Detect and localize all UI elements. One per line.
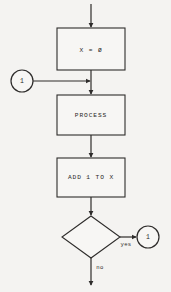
decision-no-label: no — [96, 264, 103, 271]
increment-box-label: ADD 1 TO X — [68, 174, 114, 181]
flowchart-svg: X = Ø 1 PROCESS ADD 1 TO X yes 1 no — [0, 0, 171, 292]
decision-yes-label: yes — [120, 241, 131, 248]
connector-left-label: 1 — [20, 78, 24, 85]
process-box-label: PROCESS — [75, 112, 107, 119]
decision-diamond[interactable] — [62, 216, 120, 258]
connector-right-label: 1 — [146, 234, 150, 241]
flowchart-canvas: X = Ø 1 PROCESS ADD 1 TO X yes 1 no — [0, 0, 171, 292]
init-box-label: X = Ø — [79, 47, 102, 54]
